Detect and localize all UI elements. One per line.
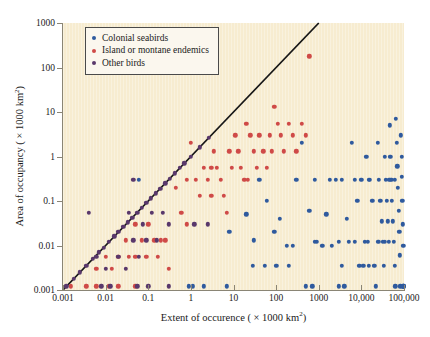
x-axis-tick [191,285,192,290]
y-axis-tick-label: 0.01 [38,241,55,251]
y-axis-tick-label: 1 [50,152,55,162]
legend-item-2: Other birds [92,57,209,70]
x-axis-tick-label: 0.001 [52,293,73,303]
data-point [401,222,405,226]
y-axis-title-sup: 2 [13,89,21,93]
x-axis-tick-label: 10 [229,293,239,303]
legend-item-1: Island or montane endemics [92,45,209,58]
y-axis-tick [57,246,62,247]
x-axis-tick [148,285,149,290]
y-axis-tick [57,23,62,24]
x-axis-tick-label: 0.1 [142,293,154,303]
x-axis-tick-label: 100 [269,293,283,303]
y-axis-tick [57,290,62,291]
figure-scatter-plot: 0.0010.010.11101001000 0.0010.010.111010… [0,0,430,337]
x-axis-tick [276,285,277,290]
x-axis-title-suffix: ) [303,312,307,323]
x-axis-tick-label: 1000 [309,293,328,303]
x-axis-tick [404,285,405,290]
data-point [401,243,405,247]
legend-item-0: Colonial seabirds [92,32,209,45]
y-axis-tick-label: 100 [41,63,55,73]
x-axis-title-prefix: Extent of occurence ( × 1000 km [161,312,299,323]
y-axis-title: Area of occupancy ( × 1000 km2) [13,41,26,271]
y-axis-tick [57,157,62,158]
x-axis-line [62,290,405,291]
y-axis-line [62,23,63,291]
x-axis-tick-label: 1 [189,293,194,303]
y-axis-tick-label: 0.1 [43,196,55,206]
legend-marker-icon [92,49,96,53]
x-axis-tick [63,285,64,290]
x-axis-tick [234,285,235,290]
y-axis-tick [57,68,62,69]
x-axis-title: Extent of occurence ( × 1000 km2) [63,310,404,323]
legend-item-label: Colonial seabirds [102,33,168,44]
legend-marker-icon [92,61,96,65]
x-axis-tick [361,285,362,290]
legend-item-label: Island or montane endemics [102,45,209,56]
x-axis-tick-label: 10,000 [348,293,374,303]
x-axis-tick [319,285,320,290]
y-axis-title-suffix: ) [14,86,25,90]
legend-item-label: Other birds [102,58,145,69]
x-axis-tick-label: 0.01 [97,293,114,303]
y-axis-tick [57,201,62,202]
y-axis-tick [57,112,62,113]
y-axis-title-prefix: Area of occupancy ( × 1000 km [14,93,25,227]
x-axis-tick-label: 100,000 [389,293,420,303]
y-axis-tick-label: 10 [46,107,56,117]
legend-marker-icon [92,36,96,40]
legend: Colonial seabirdsIsland or montane endem… [85,27,219,75]
y-axis-tick-label: 1000 [36,18,55,28]
x-axis-tick [106,285,107,290]
